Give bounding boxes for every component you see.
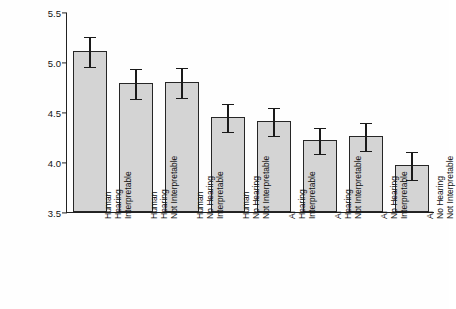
x-axis-tick-label-line: Hearing [159,156,169,219]
y-axis-tick-label: 5.5 [33,8,61,19]
error-bar [411,152,412,180]
error-bar [319,128,320,154]
x-axis-tick-label-line: No Hearing [389,171,399,219]
x-axis-tick-label-line: Hearing [297,171,307,219]
error-bar [89,37,90,67]
x-axis-tick-label: AINo HearingInterpretable [379,171,410,219]
x-axis-tick-label-line: Not Interpretable [169,156,179,219]
error-bar-cap-lower [222,132,234,133]
x-axis-tick-label-line: Interpretable [123,171,133,219]
error-bar-cap-upper [130,69,142,70]
error-bar-cap-lower [268,136,280,137]
error-bar [227,104,228,132]
y-axis-tick-label: 4.5 [33,108,61,119]
x-axis-tick-label-line: AI [333,156,343,219]
y-axis-tick-label: 4.0 [33,158,61,169]
x-axis-tick-label-line: Interpretable [307,171,317,219]
x-axis-tick-label: AINo HearingNot Interpretable [425,156,456,219]
x-axis-tick-label-line: Human [103,171,113,219]
y-axis-tick-mark [62,162,67,163]
error-bar-cap-upper [406,152,418,153]
error-bar-cap-upper [176,68,188,69]
x-axis-tick-label-line: No Hearing [205,171,215,219]
x-axis-tick-label: AIHearingInterpretable [287,171,318,219]
x-axis-tick-label-line: Human [195,171,205,219]
error-bar [181,68,182,98]
x-axis-tick-label-line: Not Interpretable [261,156,271,219]
x-axis-tick-label-line: Interpretable [399,171,409,219]
x-axis-tick-label-line: Interpretable [215,171,225,219]
x-axis-tick-label-line: No Hearing [251,156,261,219]
x-axis-tick-label-line: Hearing [343,156,353,219]
x-axis-labels: HumanHearingInterpretableHumanHearingNot… [66,213,434,309]
error-bar-cap-lower [130,99,142,100]
y-axis-tick-label: 3.5 [33,208,61,219]
error-bar-cap-lower [84,67,96,68]
bar [73,51,107,212]
x-axis-tick-label: HumanNo HearingNot Interpretable [241,156,272,219]
error-bar-cap-upper [84,37,96,38]
x-axis-tick-label-line: Hearing [113,171,123,219]
x-axis-tick-label: AIHearingNot Interpretable [333,156,364,219]
x-axis-tick-label-line: Not Interpretable [353,156,363,219]
error-bar-cap-lower [176,98,188,99]
error-bar [135,69,136,99]
y-axis-tick-mark [62,12,67,13]
x-axis-tick-label-line: AI [379,171,389,219]
y-axis-tick-mark [62,112,67,113]
x-axis-tick-label-line: Human [241,156,251,219]
y-axis-tick-label: 5.0 [33,58,61,69]
error-bar-cap-upper [222,104,234,105]
error-bar-cap-upper [268,108,280,109]
x-axis-tick-label: HumanHearingNot Interpretable [149,156,180,219]
x-axis-tick-label-line: No Hearing [435,156,445,219]
error-bar [365,123,366,151]
x-axis-tick-label: HumanHearingInterpretable [103,171,134,219]
error-bar-cap-upper [360,123,372,124]
x-axis-tick-label-line: AI [287,171,297,219]
x-axis-tick-label-line: Not Interpretable [445,156,455,219]
error-bar-cap-lower [360,151,372,152]
error-bar-cap-lower [314,154,326,155]
error-bar-cap-upper [314,128,326,129]
x-axis-tick-label: HumanNo HearingInterpretable [195,171,226,219]
error-bar [273,108,274,136]
x-axis-tick-label-line: Human [149,156,159,219]
y-axis-tick-mark [62,62,67,63]
x-axis-tick-label-line: AI [425,156,435,219]
